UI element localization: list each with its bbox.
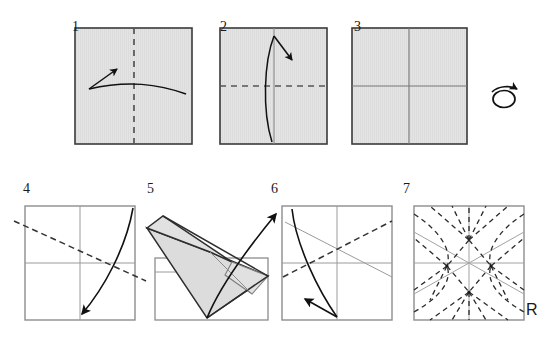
- turn-over-icon: [492, 87, 517, 108]
- step-number-4: 4: [23, 182, 30, 196]
- step-4-group: [14, 206, 146, 320]
- step-number-6: 6: [271, 182, 278, 196]
- step-6-group: [282, 206, 392, 320]
- step-1-group: [75, 28, 192, 144]
- step-2-group: [220, 28, 327, 144]
- origami-diagram-canvas: [0, 0, 559, 340]
- step-5-group: [147, 214, 276, 320]
- step-number-2: 2: [220, 20, 227, 34]
- step-number-7: 7: [403, 182, 410, 196]
- step-7-group: [414, 206, 524, 320]
- step-3-group: [352, 28, 517, 144]
- step-number-1: 1: [72, 20, 79, 34]
- step-number-3: 3: [354, 20, 361, 34]
- step-number-5: 5: [147, 182, 154, 196]
- reference-label: R: [526, 302, 538, 318]
